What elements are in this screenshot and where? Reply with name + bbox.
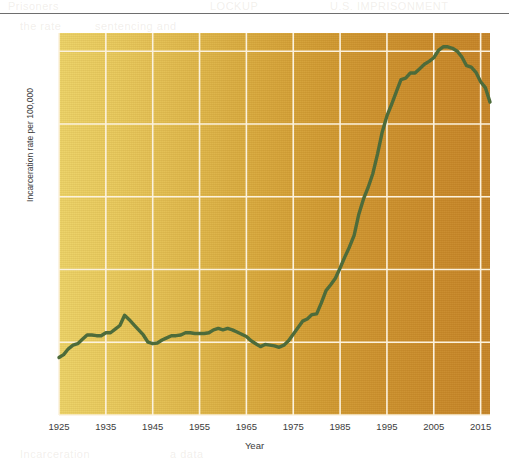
bleed-text-5: sentencing and: [95, 20, 177, 32]
x-tick-label: 1935: [83, 421, 129, 432]
bleed-text-4: the rate: [20, 20, 61, 32]
page-divider-rule: [0, 13, 509, 14]
x-axis-label: Year: [0, 440, 509, 451]
data-line-layer: [59, 33, 490, 415]
x-tick-label: 1965: [223, 421, 269, 432]
x-tick-label: 1995: [364, 421, 410, 432]
plot-area: 0255075100125150175200225250275300325350…: [59, 33, 490, 415]
bleed-text-1: Prisoners: [8, 0, 59, 12]
chart-figure: Prisoners LOCKUP U.S. IMPRISONMENT the r…: [0, 0, 509, 463]
x-tick-label: 1955: [177, 421, 223, 432]
x-tick-label: 2005: [411, 421, 457, 432]
x-tick-label: 1985: [317, 421, 363, 432]
bleed-text-2: LOCKUP: [210, 0, 258, 12]
x-tick-label: 1975: [270, 421, 316, 432]
x-tick-label: 2015: [458, 421, 504, 432]
x-tick-label: 1925: [36, 421, 82, 432]
y-axis-label: Incarceration rate per 100,000: [25, 45, 35, 245]
bleed-text-3: U.S. IMPRISONMENT: [330, 0, 449, 12]
data-line-incarceration-rate: [59, 47, 490, 358]
x-tick-label: 1945: [130, 421, 176, 432]
